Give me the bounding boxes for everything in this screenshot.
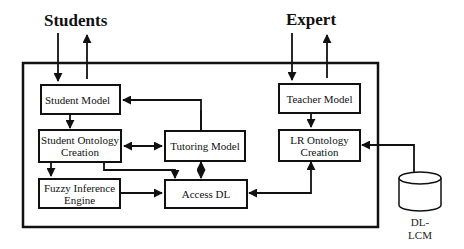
database-label-2: LCM: [405, 229, 435, 242]
node-student-model[interactable]: Student Model: [40, 84, 121, 115]
node-access-dl-label: Access DL: [182, 188, 231, 200]
actor-expert: Expert: [286, 10, 336, 30]
node-tutoring-model-label: Tutoring Model: [170, 140, 240, 152]
node-tutoring-model[interactable]: Tutoring Model: [164, 130, 246, 162]
node-student-ontology-label-1: Student Ontology: [41, 134, 119, 146]
node-access-dl[interactable]: Access DL: [164, 179, 248, 209]
database-cylinder-top: [399, 172, 441, 184]
node-fuzzy-label-2: Engine: [44, 194, 115, 206]
node-lr-ontology-label-1: LR Ontology: [290, 134, 348, 146]
node-student-ontology-creation[interactable]: Student Ontology Creation: [38, 129, 122, 163]
node-lr-ontology-creation[interactable]: LR Ontology Creation: [278, 129, 361, 162]
node-teacher-model-label: Teacher Model: [286, 93, 352, 105]
database-label: DL- LCM: [405, 216, 435, 242]
node-teacher-model[interactable]: Teacher Model: [278, 83, 361, 114]
actor-students: Students: [44, 11, 107, 31]
node-student-ontology-label-2: Creation: [41, 146, 119, 158]
diagram-canvas: Students Expert Student Model Student On…: [0, 0, 464, 249]
node-student-model-label: Student Model: [45, 94, 110, 106]
node-fuzzy-label-1: Fuzzy Inference: [44, 182, 115, 194]
node-fuzzy-inference-engine[interactable]: Fuzzy Inference Engine: [38, 178, 121, 209]
node-lr-ontology-label-2: Creation: [290, 146, 348, 158]
connectors: [0, 0, 464, 249]
database-label-1: DL-: [405, 216, 435, 229]
